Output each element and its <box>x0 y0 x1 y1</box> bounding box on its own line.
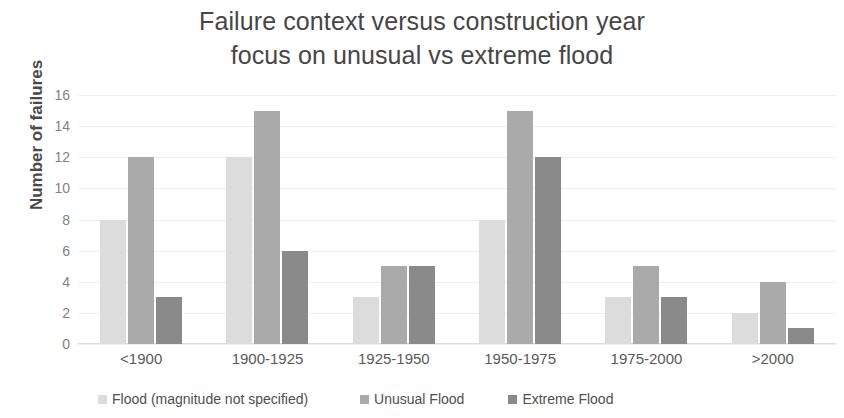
legend-item[interactable]: Unusual Flood <box>360 391 464 407</box>
bar[interactable] <box>254 111 280 344</box>
bar-chart: Failure context versus construction year… <box>0 0 844 418</box>
chart-title-line-1: Failure context versus construction year <box>0 4 844 38</box>
legend-item[interactable]: Flood (magnitude not specified) <box>98 391 308 407</box>
bar[interactable] <box>381 266 407 344</box>
bar-groups <box>78 95 836 344</box>
x-axis-tick-label: >2000 <box>710 350 836 368</box>
bar[interactable] <box>732 313 758 344</box>
legend-swatch-icon <box>508 395 517 404</box>
plot-area <box>78 95 836 344</box>
bar[interactable] <box>507 111 533 344</box>
bar[interactable] <box>633 266 659 344</box>
legend-label: Unusual Flood <box>374 391 464 407</box>
bar-group <box>457 95 583 344</box>
gridline <box>78 344 836 345</box>
bar-group <box>710 95 836 344</box>
chart-title: Failure context versus construction year… <box>0 4 844 72</box>
y-axis-tick-label: 12 <box>34 150 70 164</box>
y-axis-tick-label: 8 <box>34 213 70 227</box>
bar[interactable] <box>353 297 379 344</box>
bar-group <box>78 95 204 344</box>
bar[interactable] <box>661 297 687 344</box>
x-axis-tick-labels: <19001900-19251925-19501950-19751975-200… <box>78 350 836 368</box>
legend-swatch-icon <box>98 395 107 404</box>
bar[interactable] <box>605 297 631 344</box>
legend-swatch-icon <box>360 395 369 404</box>
bar[interactable] <box>788 328 814 344</box>
chart-title-line-2: focus on unusual vs extreme flood <box>0 38 844 72</box>
x-axis-tick-label: 1950-1975 <box>457 350 583 368</box>
x-axis-tick-label: 1900-1925 <box>204 350 330 368</box>
chart-legend: Flood (magnitude not specified)Unusual F… <box>78 391 778 407</box>
y-axis-tick-label: 6 <box>34 244 70 258</box>
bar-group <box>583 95 709 344</box>
bar[interactable] <box>226 157 252 344</box>
bar[interactable] <box>409 266 435 344</box>
bar-group <box>204 95 330 344</box>
y-axis-tick-label: 16 <box>34 88 70 102</box>
bar[interactable] <box>535 157 561 344</box>
bar[interactable] <box>100 220 126 345</box>
bar[interactable] <box>128 157 154 344</box>
bar[interactable] <box>479 220 505 345</box>
y-axis-tick-label: 14 <box>34 119 70 133</box>
bar[interactable] <box>760 282 786 344</box>
legend-label: Flood (magnitude not specified) <box>112 391 308 407</box>
y-axis-tick-labels: 1614121086420 <box>34 95 70 344</box>
x-axis-tick-label: 1925-1950 <box>331 350 457 368</box>
y-axis-tick-label: 10 <box>34 181 70 195</box>
bar[interactable] <box>282 251 308 344</box>
legend-item[interactable]: Extreme Flood <box>508 391 613 407</box>
bar-group <box>331 95 457 344</box>
legend-label: Extreme Flood <box>522 391 613 407</box>
y-axis-tick-label: 4 <box>34 275 70 289</box>
x-axis-tick-label: <1900 <box>78 350 204 368</box>
y-axis-tick-label: 2 <box>34 306 70 320</box>
y-axis-tick-label: 0 <box>34 337 70 351</box>
bar[interactable] <box>156 297 182 344</box>
x-axis-tick-label: 1975-2000 <box>583 350 709 368</box>
